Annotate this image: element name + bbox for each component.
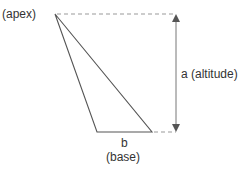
altitude-label: a (altitude)	[181, 67, 238, 81]
triangle-shape	[55, 14, 152, 132]
base-label: (base)	[106, 150, 140, 164]
apex-label: (apex)	[2, 7, 36, 21]
triangle-diagram: (apex) a (altitude) b (base)	[0, 0, 248, 172]
base-symbol-label: b	[121, 136, 128, 150]
